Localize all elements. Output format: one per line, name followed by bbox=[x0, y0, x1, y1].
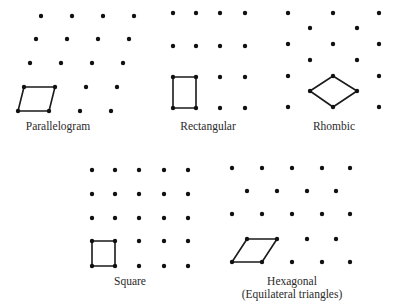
label-rhombic: Rhombic bbox=[313, 120, 355, 133]
label-parallelogram: Parallelogram bbox=[26, 120, 91, 133]
lattice-point bbox=[186, 216, 190, 220]
lattice-point bbox=[243, 44, 247, 48]
lattice-point bbox=[113, 168, 117, 172]
lattice-parallelogram bbox=[16, 14, 136, 113]
lattice-point bbox=[286, 11, 290, 15]
lattice-point bbox=[90, 168, 94, 172]
lattice-point bbox=[331, 105, 335, 109]
lattice-point bbox=[377, 74, 381, 78]
lattice-point bbox=[218, 44, 222, 48]
lattice-point bbox=[355, 89, 359, 93]
unit-cell-rhombic bbox=[310, 76, 357, 107]
lattice-point bbox=[65, 37, 69, 41]
lattice-point bbox=[16, 109, 20, 113]
lattice-point bbox=[260, 260, 264, 264]
lattice-point bbox=[34, 37, 38, 41]
lattice-point bbox=[331, 42, 335, 46]
lattice-point bbox=[331, 74, 335, 78]
lattice-point bbox=[137, 216, 141, 220]
lattice-point bbox=[90, 239, 94, 243]
lattice-point bbox=[275, 237, 279, 241]
lattice-point bbox=[137, 239, 141, 243]
lattice-point bbox=[308, 26, 312, 30]
lattice-point bbox=[186, 168, 190, 172]
unit-cell-rectangular bbox=[173, 77, 196, 108]
lattice-point bbox=[194, 106, 198, 110]
lattice-point bbox=[162, 192, 166, 196]
lattice-point bbox=[218, 75, 222, 79]
lattice-point bbox=[260, 166, 264, 170]
label-hexagonal-subtitle: (Equilateral triangles) bbox=[242, 288, 343, 301]
lattice-point bbox=[377, 42, 381, 46]
lattice-point bbox=[305, 237, 309, 241]
lattice-point bbox=[47, 109, 51, 113]
lattice-point bbox=[137, 168, 141, 172]
lattice-point bbox=[127, 37, 131, 41]
lattice-point bbox=[286, 42, 290, 46]
lattice-point bbox=[113, 264, 117, 268]
lattice-point bbox=[39, 14, 43, 18]
lattice-point bbox=[96, 37, 100, 41]
lattice-point bbox=[334, 189, 338, 193]
lattice-point bbox=[348, 166, 352, 170]
lattice-point bbox=[171, 11, 175, 15]
lattice-point bbox=[28, 61, 32, 65]
lattice-point bbox=[132, 14, 136, 18]
lattice-diagram bbox=[0, 0, 396, 308]
lattice-point bbox=[245, 189, 249, 193]
lattice-rhombic bbox=[286, 11, 381, 109]
lattice-point bbox=[113, 239, 117, 243]
unit-cell-parallelogram bbox=[18, 87, 55, 111]
lattice-point bbox=[137, 192, 141, 196]
lattice-point bbox=[305, 189, 309, 193]
lattice-point bbox=[162, 239, 166, 243]
lattice-point bbox=[243, 75, 247, 79]
unit-cell-square bbox=[92, 241, 115, 266]
label-square: Square bbox=[114, 275, 146, 288]
lattice-point bbox=[334, 237, 338, 241]
lattice-point bbox=[162, 216, 166, 220]
lattice-point bbox=[22, 85, 26, 89]
lattice-point bbox=[186, 264, 190, 268]
lattice-point bbox=[230, 166, 234, 170]
lattice-point bbox=[377, 105, 381, 109]
lattice-point bbox=[286, 105, 290, 109]
lattice-point bbox=[78, 109, 82, 113]
lattice-point bbox=[186, 192, 190, 196]
label-rectangular: Rectangular bbox=[180, 120, 236, 133]
lattice-point bbox=[230, 212, 234, 216]
lattice-point bbox=[194, 11, 198, 15]
lattice-point bbox=[320, 212, 324, 216]
lattice-point bbox=[162, 264, 166, 268]
lattice-point bbox=[53, 85, 57, 89]
lattice-point bbox=[243, 106, 247, 110]
lattice-point bbox=[101, 14, 105, 18]
label-hexagonal: Hexagonal (Equilateral triangles) bbox=[242, 275, 343, 301]
lattice-point bbox=[260, 212, 264, 216]
lattice-point bbox=[355, 26, 359, 30]
lattice-point bbox=[245, 237, 249, 241]
lattice-point bbox=[290, 212, 294, 216]
label-hexagonal-title: Hexagonal bbox=[242, 275, 343, 288]
lattice-point bbox=[290, 166, 294, 170]
lattice-point bbox=[218, 106, 222, 110]
lattice-point bbox=[243, 11, 247, 15]
lattice-point bbox=[162, 168, 166, 172]
lattice-point bbox=[113, 192, 117, 196]
lattice-point bbox=[308, 89, 312, 93]
lattice-point bbox=[286, 74, 290, 78]
lattice-point bbox=[320, 260, 324, 264]
lattice-point bbox=[84, 85, 88, 89]
lattice-point bbox=[171, 75, 175, 79]
lattice-point bbox=[115, 85, 119, 89]
lattice-point bbox=[218, 11, 222, 15]
lattice-point bbox=[171, 106, 175, 110]
lattice-point bbox=[275, 189, 279, 193]
unit-cell-hexagonal bbox=[232, 239, 277, 262]
lattice-point bbox=[348, 212, 352, 216]
lattice-point bbox=[331, 11, 335, 15]
lattice-point bbox=[194, 44, 198, 48]
lattice-point bbox=[109, 109, 113, 113]
lattice-point bbox=[121, 61, 125, 65]
lattice-point bbox=[70, 14, 74, 18]
